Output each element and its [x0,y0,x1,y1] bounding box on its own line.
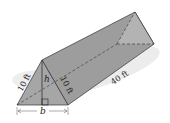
prism-svg: b h 10 ft 10 ft 40 ft [0,0,170,123]
prism-diagram: b h 10 ft 10 ft 40 ft [0,0,170,123]
base-label: b [40,106,46,116]
height-label: h [44,74,50,84]
